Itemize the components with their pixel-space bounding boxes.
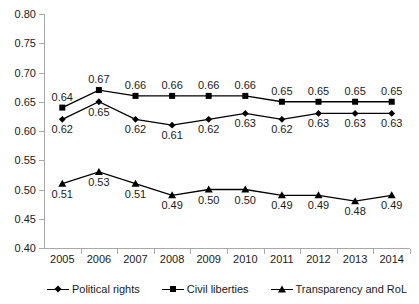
- data-point-label: 0.50: [225, 195, 265, 206]
- data-point-label: 0.50: [189, 195, 229, 206]
- x-tick-label: 2014: [369, 254, 415, 265]
- y-tick-label: 0.55: [2, 155, 36, 166]
- square-marker-icon: [170, 286, 176, 292]
- series-marker: [58, 180, 66, 187]
- series-marker: [205, 116, 212, 123]
- series-marker: [279, 116, 286, 123]
- data-point-label: 0.49: [152, 200, 192, 211]
- y-tick-mark: [39, 160, 44, 161]
- data-point-label: 0.66: [189, 80, 229, 91]
- data-point-label: 0.61: [152, 130, 192, 141]
- series-marker: [316, 99, 322, 105]
- series-marker: [351, 197, 359, 204]
- y-tick-mark: [39, 73, 44, 74]
- series-marker: [388, 110, 395, 117]
- data-point-label: 0.66: [116, 80, 156, 91]
- series-marker: [169, 93, 175, 99]
- data-point-label: 0.48: [335, 206, 375, 217]
- data-point-label: 0.49: [299, 200, 339, 211]
- triangle-marker-icon: [278, 286, 286, 293]
- series-marker: [241, 186, 249, 193]
- data-point-label: 0.53: [79, 177, 119, 188]
- y-tick-label: 0.75: [2, 38, 36, 49]
- y-tick-label: 0.65: [2, 97, 36, 108]
- series-marker: [59, 116, 66, 123]
- series-marker: [242, 110, 249, 117]
- series-marker: [352, 110, 359, 117]
- data-point-label: 0.49: [262, 200, 302, 211]
- data-point-label: 0.62: [42, 124, 82, 135]
- legend-label: Transparency and RoL: [296, 284, 408, 295]
- data-point-label: 0.63: [335, 118, 375, 129]
- data-point-label: 0.65: [335, 86, 375, 97]
- data-point-label: 0.62: [116, 124, 156, 135]
- legend-label: Political rights: [72, 284, 140, 295]
- series-marker: [205, 186, 213, 193]
- data-point-label: 0.51: [116, 189, 156, 200]
- data-point-label: 0.64: [42, 92, 82, 103]
- line-chart: 0.800.750.700.650.600.550.500.450.40 200…: [0, 0, 419, 304]
- legend-entry[interactable]: Transparency and RoL: [271, 284, 408, 295]
- data-point-label: 0.62: [189, 124, 229, 135]
- data-point-label: 0.65: [262, 86, 302, 97]
- legend-entry[interactable]: Political rights: [47, 284, 140, 295]
- legend-entry[interactable]: Civil liberties: [162, 284, 249, 295]
- chart-legend: Political rightsCivil libertiesTranspare…: [44, 280, 410, 298]
- y-tick-label: 0.40: [2, 243, 36, 254]
- data-point-label: 0.65: [372, 86, 412, 97]
- series-marker: [95, 168, 103, 175]
- legend-swatch: [271, 284, 293, 294]
- data-point-label: 0.66: [152, 80, 192, 91]
- y-tick-mark: [39, 219, 44, 220]
- y-tick-label: 0.45: [2, 214, 36, 225]
- series-marker: [352, 99, 358, 105]
- y-tick-mark: [39, 43, 44, 44]
- series-marker: [315, 191, 323, 198]
- data-point-label: 0.67: [79, 74, 119, 85]
- data-point-label: 0.62: [262, 124, 302, 135]
- series-marker: [132, 116, 139, 123]
- data-point-label: 0.49: [372, 200, 412, 211]
- series-marker: [133, 93, 139, 99]
- series-marker: [206, 93, 212, 99]
- y-tick-mark: [39, 14, 44, 15]
- y-tick-label: 0.80: [2, 9, 36, 20]
- series-marker: [389, 99, 395, 105]
- data-point-label: 0.65: [79, 107, 119, 118]
- data-point-label: 0.51: [42, 189, 82, 200]
- diamond-marker-icon: [54, 285, 61, 292]
- series-marker: [96, 87, 102, 93]
- y-tick-mark: [39, 248, 44, 249]
- data-point-label: 0.65: [299, 86, 339, 97]
- y-tick-label: 0.50: [2, 185, 36, 196]
- series-marker: [278, 191, 286, 198]
- series-marker: [96, 98, 103, 105]
- series-marker: [279, 99, 285, 105]
- legend-swatch: [162, 284, 184, 294]
- series-marker: [132, 180, 140, 187]
- y-tick-label: 0.60: [2, 126, 36, 137]
- data-point-label: 0.63: [299, 118, 339, 129]
- series-marker: [388, 191, 396, 198]
- data-point-label: 0.63: [372, 118, 412, 129]
- legend-swatch: [47, 284, 69, 294]
- series-marker: [315, 110, 322, 117]
- series-marker: [169, 122, 176, 129]
- series-marker: [168, 191, 176, 198]
- data-point-label: 0.66: [225, 80, 265, 91]
- y-tick-label: 0.70: [2, 68, 36, 79]
- legend-label: Civil liberties: [187, 284, 249, 295]
- series-marker: [242, 93, 248, 99]
- data-point-label: 0.63: [225, 118, 265, 129]
- series-marker: [59, 105, 65, 111]
